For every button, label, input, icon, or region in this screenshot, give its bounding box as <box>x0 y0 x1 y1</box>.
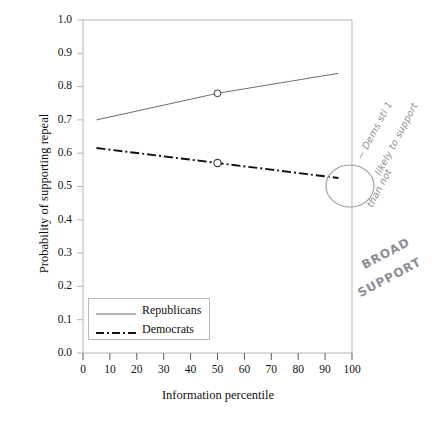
x-tick-label: 50 <box>203 363 233 375</box>
x-axis-title: Information percentile <box>83 388 353 403</box>
x-tick-label: 80 <box>283 363 313 375</box>
x-tick-label: 30 <box>149 363 179 375</box>
x-tick-label: 20 <box>122 363 152 375</box>
y-axis-ticks <box>77 20 83 353</box>
marker-democrats-median <box>214 159 221 166</box>
x-tick-label: 70 <box>256 363 286 375</box>
legend-key-dashdot-line <box>95 324 137 334</box>
legend-label-republicans: Republicans <box>142 303 201 318</box>
legend: Republicans Democrats <box>88 298 210 340</box>
x-tick-label: 0 <box>68 363 98 375</box>
x-tick-label: 10 <box>95 363 125 375</box>
series-line-democrats <box>97 148 339 178</box>
x-tick-label: 40 <box>176 363 206 375</box>
y-axis-title: Probability of supporting repeal <box>37 64 52 324</box>
series-line-republicans <box>97 73 339 120</box>
y-tick-label: 1.0 <box>42 13 72 25</box>
marker-republicans-median <box>214 90 221 97</box>
x-tick-label: 60 <box>229 363 259 375</box>
y-tick-label: 0.9 <box>42 46 72 58</box>
x-tick-label: 100 <box>337 363 367 375</box>
legend-item-republicans: Republicans <box>95 301 201 319</box>
legend-label-democrats: Democrats <box>142 322 194 337</box>
x-tick-label: 90 <box>310 363 340 375</box>
x-axis-ticks <box>83 353 352 360</box>
y-tick-label: 0.0 <box>42 346 72 358</box>
legend-item-democrats: Democrats <box>95 320 194 338</box>
figure-chart-probability-supporting-repeal: 1.0 0.9 0.8 0.7 0.6 0.5 0.4 0.3 0.2 0.1 … <box>0 0 436 427</box>
legend-key-solid-line <box>95 305 137 315</box>
